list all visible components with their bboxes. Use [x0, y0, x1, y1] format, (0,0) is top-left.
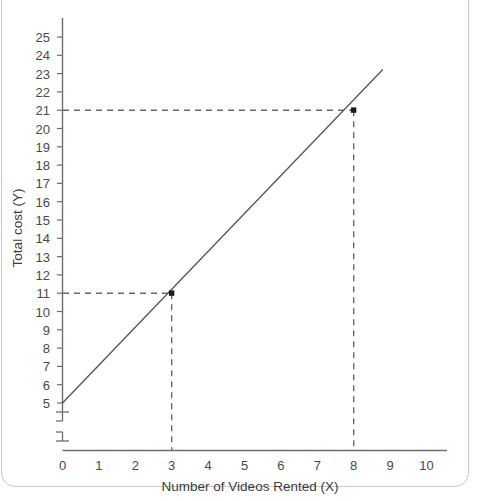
cost-line	[63, 70, 383, 404]
x-tick-label: 10	[419, 458, 433, 473]
y-tick-label: 11	[37, 286, 51, 301]
x-tick-label: 4	[204, 458, 211, 473]
x-tick-label: 7	[314, 458, 321, 473]
y-tick-label: 18	[36, 158, 50, 173]
x-axis-ticks: 0 1 2 3 4 5 6 7 8 9 10	[59, 458, 434, 473]
y-tick-label: 12	[36, 268, 50, 283]
y-tick-label: 14	[36, 231, 50, 246]
y-tick-label: 19	[36, 140, 50, 155]
x-tick-label: 5	[241, 458, 248, 473]
data-point-marker	[169, 290, 174, 295]
x-axis-title: Number of Videos Rented (X)	[162, 479, 339, 494]
y-tick-label: 16	[36, 195, 50, 210]
y-tick-label: 10	[36, 305, 50, 320]
x-tick-label: 1	[95, 458, 102, 473]
y-tick-label: 15	[36, 213, 50, 228]
y-tick-label: 6	[43, 378, 50, 393]
chart-figure: 5 6 7 8 9 10 11 12 13 14 15 16 17	[0, 0, 485, 501]
y-tick-label: 21	[36, 103, 50, 118]
data-point-marker	[351, 107, 356, 112]
y-tick-label: 13	[36, 250, 50, 265]
x-tick-label: 8	[350, 458, 357, 473]
y-tick-label: 7	[43, 359, 50, 374]
y-tick-label: 17	[36, 176, 50, 191]
x-tick-label: 0	[59, 458, 66, 473]
y-axis-break-icon	[56, 412, 69, 441]
x-tick-label: 6	[277, 458, 284, 473]
y-tick-label: 5	[43, 396, 50, 411]
guide-lines-point-1	[63, 293, 172, 450]
x-tick-label: 3	[168, 458, 175, 473]
y-tick-label: 25	[36, 30, 50, 45]
line-chart-plot: 5 6 7 8 9 10 11 12 13 14 15 16 17	[0, 0, 485, 501]
y-axis-title: Total cost (Y)	[10, 189, 25, 268]
y-tick-label: 20	[36, 122, 50, 137]
y-tick-label: 22	[36, 85, 50, 100]
y-tick-label: 9	[43, 323, 50, 338]
y-tick-label: 8	[43, 341, 50, 356]
y-tick-label: 24	[36, 48, 50, 63]
y-tick-label: 23	[36, 67, 50, 82]
y-axis-ticks: 5 6 7 8 9 10 11 12 13 14 15 16 17	[36, 30, 63, 411]
x-tick-label: 2	[132, 458, 139, 473]
x-tick-label: 9	[386, 458, 393, 473]
guide-lines-point-2	[63, 110, 354, 450]
